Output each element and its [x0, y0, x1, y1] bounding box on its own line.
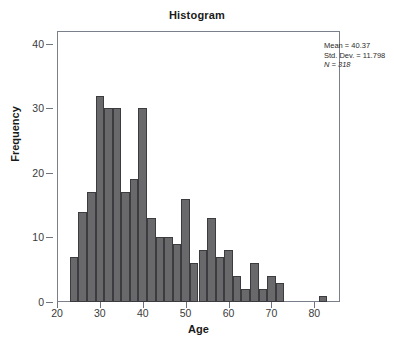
- x-axis-tick-mark: [143, 302, 144, 308]
- x-axis-tick-label: 60: [223, 307, 235, 319]
- x-axis-tick-label: 30: [94, 307, 106, 319]
- x-axis-tick-label: 50: [180, 307, 192, 319]
- histogram-figure: Histogram 010203040 Frequency 2030405060…: [0, 0, 394, 348]
- stat-n: N = 318: [324, 60, 385, 70]
- x-axis-tick-mark: [271, 302, 272, 308]
- x-axis-tick-mark: [314, 302, 315, 308]
- x-axis-tick-label: 70: [266, 307, 278, 319]
- stat-std-dev: Std. Dev. = 11.798: [324, 51, 385, 61]
- x-axis-tick-label: 40: [137, 307, 149, 319]
- x-axis-tick-label: 20: [51, 307, 63, 319]
- x-axis-tick-mark: [100, 302, 101, 308]
- statistics-annotation: Mean = 40.37 Std. Dev. = 11.798 N = 318: [324, 41, 385, 70]
- stat-mean: Mean = 40.37: [324, 41, 385, 51]
- x-axis-title: Age: [57, 323, 340, 335]
- x-axis-tick-mark: [229, 302, 230, 308]
- x-axis-tick-mark: [57, 302, 58, 308]
- x-axis-tick-label: 80: [308, 307, 320, 319]
- x-axis-tick-mark: [186, 302, 187, 308]
